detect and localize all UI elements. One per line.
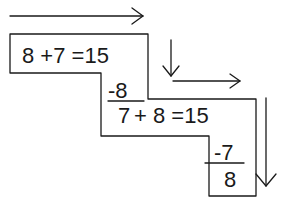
- subtract-2: -7: [214, 140, 234, 165]
- right-arrow-icon: [173, 74, 240, 88]
- equation-2: + 8 =15: [134, 103, 209, 128]
- subtract-1: -8: [108, 78, 128, 103]
- result-2: 8: [224, 167, 236, 192]
- right-arrow-icon: [10, 8, 143, 24]
- down-arrow-icon: [256, 98, 276, 186]
- down-arrow-icon: [163, 40, 179, 76]
- result-1: 7: [118, 103, 130, 128]
- staircase-diagram: 8 +7 =15 -8 7 + 8 =15 -7 8: [0, 0, 282, 201]
- equation-1: 8 +7 =15: [22, 43, 109, 68]
